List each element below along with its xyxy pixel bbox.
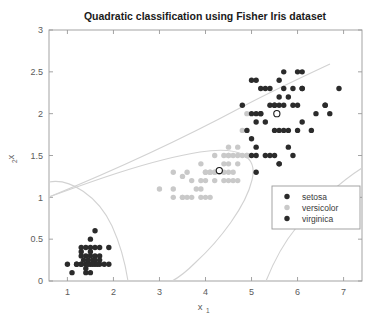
x-axis-label-sub: 1: [206, 307, 210, 314]
data-point-virginica: [290, 103, 295, 108]
y-tick-label: 3: [38, 25, 43, 35]
data-point-virginica: [267, 103, 272, 108]
data-point-virginica: [276, 161, 281, 166]
data-point-versicolor: [198, 186, 203, 191]
data-point-versicolor: [244, 153, 249, 158]
data-point-virginica: [281, 69, 286, 74]
data-point-virginica: [286, 128, 291, 133]
data-point-setosa: [74, 262, 79, 267]
data-point-virginica: [253, 144, 258, 149]
data-point-virginica: [249, 136, 254, 141]
legend-marker-versicolor: [284, 205, 289, 210]
y-tick-label: 0: [38, 276, 43, 286]
data-point-virginica: [276, 103, 281, 108]
data-point-virginica: [281, 128, 286, 133]
data-point-virginica: [299, 86, 304, 91]
data-point-versicolor: [194, 186, 199, 191]
x-axis-label-text: x: [198, 301, 203, 312]
data-point-virginica: [253, 78, 258, 83]
data-point-virginica: [253, 170, 258, 175]
data-point-virginica: [267, 153, 272, 158]
chart-title: Quadratic classification using Fisher Ir…: [84, 10, 327, 22]
data-point-versicolor: [244, 111, 249, 116]
data-point-versicolor: [180, 195, 185, 200]
series-versicolor-points: [157, 111, 250, 200]
data-point-versicolor: [226, 153, 231, 158]
data-point-virginica: [281, 103, 286, 108]
data-point-virginica: [272, 153, 277, 158]
data-point-virginica: [253, 119, 258, 124]
data-point-setosa: [83, 245, 88, 250]
data-point-virginica: [327, 111, 332, 116]
data-point-versicolor: [226, 170, 231, 175]
data-point-versicolor: [221, 161, 226, 166]
x-tick-label: 1: [65, 287, 70, 297]
x-tick-label: 4: [203, 287, 208, 297]
y-tick-label: 2.5: [30, 67, 43, 77]
data-point-versicolor: [221, 178, 226, 183]
data-point-setosa: [88, 236, 93, 241]
data-point-versicolor: [203, 178, 208, 183]
data-point-virginica: [244, 128, 249, 133]
x-axis-label: x 1: [198, 301, 210, 314]
data-point-setosa: [85, 262, 90, 267]
data-point-virginica: [295, 128, 300, 133]
legend-label-virginica: virginica: [302, 214, 333, 224]
data-point-virginica: [313, 111, 318, 116]
data-point-virginica: [267, 86, 272, 91]
y-tick-label: 1: [38, 193, 43, 203]
data-point-versicolor: [207, 170, 212, 175]
data-point-setosa: [106, 245, 111, 250]
data-point-versicolor: [235, 178, 240, 183]
data-point-setosa: [97, 245, 102, 250]
data-point-versicolor: [157, 186, 162, 191]
data-point-virginica: [276, 128, 281, 133]
data-point-versicolor: [207, 195, 212, 200]
data-point-virginica: [286, 144, 291, 149]
legend-label-setosa: setosa: [302, 192, 327, 202]
data-point-virginica: [290, 86, 295, 91]
data-point-versicolor: [212, 178, 217, 183]
data-point-versicolor: [198, 195, 203, 200]
y-tick-label: 1.5: [30, 151, 43, 161]
x-tick-label: 7: [341, 287, 346, 297]
data-point-versicolor: [221, 153, 226, 158]
y-axis-label-sub: 2: [11, 159, 18, 163]
data-point-setosa: [81, 257, 86, 262]
data-point-versicolor: [180, 174, 185, 179]
data-point-versicolor: [198, 161, 203, 166]
data-point-versicolor: [171, 170, 176, 175]
data-point-versicolor: [235, 144, 240, 149]
data-point-versicolor: [240, 128, 245, 133]
legend-label-versicolor: versicolor: [302, 203, 339, 213]
data-point-setosa: [92, 245, 97, 250]
x-tick-label: 2: [111, 287, 116, 297]
data-point-setosa: [88, 249, 93, 254]
data-point-virginica: [309, 128, 314, 133]
data-point-versicolor: [189, 195, 194, 200]
data-point-setosa: [106, 262, 111, 267]
data-point-virginica: [263, 86, 268, 91]
data-point-virginica: [253, 111, 258, 116]
data-point-virginica: [322, 103, 327, 108]
data-point-setosa: [95, 262, 100, 267]
data-point-setosa: [90, 262, 95, 267]
data-point-virginica: [272, 103, 277, 108]
data-point-setosa: [102, 262, 107, 267]
data-point-virginica: [299, 119, 304, 124]
data-point-versicolor: [230, 153, 235, 158]
data-point-virginica: [336, 86, 341, 91]
data-point-setosa: [65, 262, 70, 267]
data-point-virginica: [299, 69, 304, 74]
data-point-virginica: [240, 103, 245, 108]
data-point-virginica: [281, 86, 286, 91]
y-tick-label: 2: [38, 109, 43, 119]
data-point-versicolor: [235, 153, 240, 158]
legend[interactable]: setosa versicolor virginica: [272, 186, 360, 229]
data-point-virginica: [276, 78, 281, 83]
versicolor-centroid: [216, 167, 222, 173]
data-point-setosa: [79, 249, 84, 254]
y-tick-label: 0.5: [30, 234, 43, 244]
data-point-versicolor: [226, 144, 231, 149]
data-point-virginica: [286, 94, 291, 99]
